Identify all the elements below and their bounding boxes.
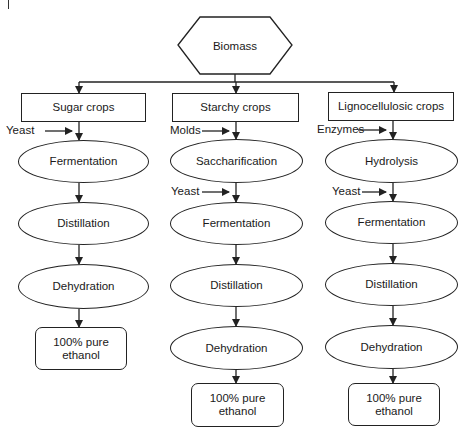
distillation-step: Distillation [18, 202, 149, 245]
hydrolysis-step: Hydrolysis [325, 139, 458, 183]
dehydration-step: Dehydration [170, 326, 303, 370]
lignocellulosic-crops-box: Lignocellulosic crops [328, 92, 454, 121]
ethanol-product-box: 100% pure ethanol [35, 327, 127, 370]
yeast-input-label: Yeast [332, 185, 360, 198]
saccharification-step: Saccharification [170, 139, 303, 183]
distillation-step: Distillation [170, 264, 303, 307]
sugar-crops-box: Sugar crops [21, 93, 146, 122]
product-line-2: ethanol [375, 405, 413, 418]
distillation-step: Distillation [325, 263, 458, 306]
yeast-input-label: Yeast [6, 124, 34, 137]
ethanol-product-box: 100% pure ethanol [191, 383, 284, 427]
fermentation-step: Fermentation [325, 201, 458, 244]
fermentation-step: Fermentation [18, 140, 149, 183]
product-line-1: 100% pure [53, 336, 109, 349]
product-line-1: 100% pure [366, 392, 422, 405]
dehydration-step: Dehydration [18, 264, 149, 309]
ethanol-product-box: 100% pure ethanol [348, 383, 440, 426]
molds-input-label: Molds [170, 124, 201, 137]
product-line-1: 100% pure [210, 392, 266, 405]
product-line-2: ethanol [219, 405, 257, 418]
yeast-input-label: Yeast [171, 185, 199, 198]
biomass-node: Biomass [178, 17, 292, 74]
product-line-2: ethanol [62, 349, 100, 362]
fermentation-step: Fermentation [170, 202, 303, 245]
dehydration-step: Dehydration [325, 325, 458, 369]
starchy-crops-box: Starchy crops [172, 93, 299, 122]
enzymes-input-label: Enzymes [317, 123, 364, 136]
